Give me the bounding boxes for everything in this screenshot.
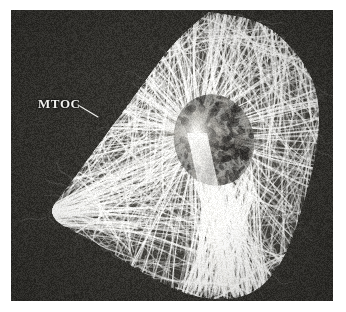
figure-root: MTOC xyxy=(0,0,346,312)
micrograph-plate xyxy=(11,10,333,301)
micrograph-canvas xyxy=(11,10,333,301)
